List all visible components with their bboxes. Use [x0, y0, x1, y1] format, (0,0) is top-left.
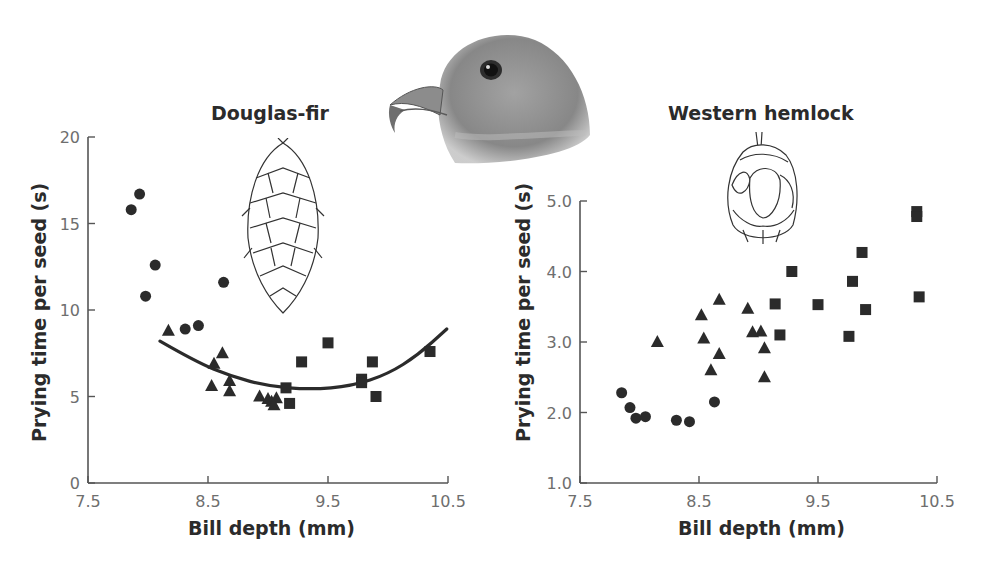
circle-marker: [616, 387, 627, 398]
chart-panel-0: 051015207.58.59.510.5: [60, 128, 466, 511]
triangle-marker: [758, 370, 771, 382]
square-marker: [296, 356, 307, 367]
chart-panel-1: 1.02.03.04.05.07.58.59.510.5: [547, 192, 955, 511]
triangle-marker: [758, 341, 771, 353]
circle-marker: [640, 411, 651, 422]
square-marker: [857, 247, 868, 258]
square-marker: [911, 211, 922, 222]
circle-marker: [193, 320, 204, 331]
x-tick-label: 10.5: [919, 492, 955, 511]
triangle-marker: [216, 346, 229, 358]
y-tick-label: 10: [60, 301, 80, 320]
square-marker: [284, 398, 295, 409]
x-tick-label: 9.5: [805, 492, 830, 511]
x-tick-label: 8.5: [195, 492, 220, 511]
square-marker: [281, 382, 292, 393]
triangle-marker: [754, 324, 767, 336]
triangle-marker: [162, 324, 175, 336]
circle-marker: [709, 396, 720, 407]
y-tick-label: 4.0: [547, 263, 572, 282]
square-marker: [813, 299, 824, 310]
square-marker: [914, 291, 925, 302]
circle-marker: [684, 416, 695, 427]
y-tick-label: 5.0: [547, 192, 572, 211]
x-tick-label: 7.5: [75, 492, 100, 511]
circle-marker: [134, 189, 145, 200]
square-marker: [356, 377, 367, 388]
y-tick-label: 20: [60, 128, 80, 147]
square-marker: [860, 304, 871, 315]
triangle-marker: [695, 308, 708, 320]
x-tick-label: 8.5: [686, 492, 711, 511]
circle-marker: [671, 415, 682, 426]
scatter-charts: 051015207.58.59.510.51.02.03.04.05.07.58…: [0, 0, 982, 572]
triangle-marker: [697, 331, 710, 343]
square-marker: [425, 346, 436, 357]
y-tick-label: 1.0: [547, 474, 572, 493]
square-marker: [774, 329, 785, 340]
triangle-marker: [651, 335, 664, 347]
x-tick-label: 7.5: [567, 492, 592, 511]
x-tick-label: 9.5: [315, 492, 340, 511]
triangle-marker: [713, 293, 726, 305]
circle-marker: [180, 324, 191, 335]
y-tick-label: 15: [60, 215, 80, 234]
x-tick-label: 10.5: [430, 492, 466, 511]
triangle-marker: [741, 302, 754, 314]
square-marker: [323, 337, 334, 348]
y-tick-label: 3.0: [547, 333, 572, 352]
circle-marker: [624, 402, 635, 413]
triangle-marker: [205, 379, 218, 391]
circle-marker: [140, 291, 151, 302]
y-tick-label: 2.0: [547, 404, 572, 423]
square-marker: [847, 276, 858, 287]
triangle-marker: [208, 357, 221, 369]
circle-marker: [150, 260, 161, 271]
y-tick-label: 5: [70, 388, 80, 407]
square-marker: [786, 266, 797, 277]
triangle-marker: [223, 384, 236, 396]
triangle-marker: [713, 347, 726, 359]
square-marker: [367, 356, 378, 367]
square-marker: [843, 331, 854, 342]
triangle-marker: [704, 363, 717, 375]
y-tick-label: 0: [70, 474, 80, 493]
circle-marker: [218, 277, 229, 288]
circle-marker: [126, 204, 137, 215]
circle-marker: [630, 413, 641, 424]
square-marker: [371, 391, 382, 402]
square-marker: [770, 298, 781, 309]
